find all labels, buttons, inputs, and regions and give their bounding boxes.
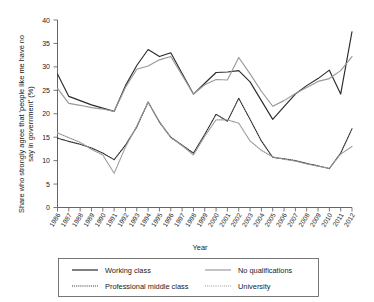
y-axis-ticks: 0510152025303540 xyxy=(42,17,57,212)
series-line-working-class xyxy=(58,32,353,120)
y-axis-title-line1: Share who strongly agree that 'people li… xyxy=(17,35,26,213)
x-tick-label: 2012 xyxy=(342,212,356,228)
chart-svg: Share who strongly agree that 'people li… xyxy=(0,0,374,302)
series-lines xyxy=(58,32,353,174)
chart-legend: Working classNo qualificationsProfession… xyxy=(59,259,319,297)
y-tick-label: 35 xyxy=(42,40,50,47)
y-tick-label: 25 xyxy=(42,87,50,94)
x-axis-ticks: 1986198719881989199019911992199319941995… xyxy=(48,208,356,228)
x-tick-label: 2010 xyxy=(320,212,334,228)
legend-label: University xyxy=(238,282,271,291)
y-axis-title-line2: say in government' (%) xyxy=(26,86,35,161)
legend-label: Professional middle class xyxy=(105,282,189,291)
x-axis-title: Year xyxy=(193,243,208,252)
y-tick-label: 15 xyxy=(42,134,50,141)
legend-label: Working class xyxy=(105,266,151,275)
series-line-university xyxy=(58,102,353,173)
legend-border xyxy=(59,259,319,297)
y-axis-title: Share who strongly agree that 'people li… xyxy=(17,35,35,213)
chart-figure: Share who strongly agree that 'people li… xyxy=(0,0,374,302)
y-tick-label: 30 xyxy=(42,63,50,70)
y-tick-label: 20 xyxy=(42,110,50,117)
y-tick-label: 0 xyxy=(46,204,50,211)
y-tick-label: 10 xyxy=(42,157,50,164)
y-tick-label: 40 xyxy=(42,17,50,24)
legend-label: No qualifications xyxy=(238,266,293,275)
y-tick-label: 5 xyxy=(46,181,50,188)
